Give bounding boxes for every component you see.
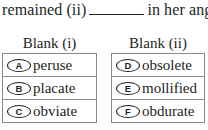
option-letter-badge: B <box>7 82 31 95</box>
option-word: mollified <box>142 81 197 96</box>
question-sentence: remained (ii)in her anger. <box>2 1 208 19</box>
option-letter-badge: A <box>7 59 31 72</box>
option-b[interactable]: Bplacate <box>3 77 97 100</box>
option-letter-badge: D <box>116 59 140 72</box>
sentence-after: in her anger. <box>147 1 208 18</box>
option-e[interactable]: Emollified <box>112 77 205 100</box>
blank-i-column: Blank (i) Aperuse Bplacate Cobviate <box>2 36 97 123</box>
blank-i-options: Aperuse Bplacate Cobviate <box>2 53 97 123</box>
blank-ii-options: Dobsolete Emollified Fobdurate <box>111 53 205 123</box>
sentence-before: remained (ii) <box>2 1 86 18</box>
option-letter-badge: F <box>116 105 140 118</box>
option-f[interactable]: Fobdurate <box>112 100 205 123</box>
blank-ii-title: Blank (ii) <box>111 36 205 53</box>
option-d[interactable]: Dobsolete <box>112 54 205 77</box>
blank-ii-line <box>89 2 144 15</box>
option-letter-badge: E <box>116 82 140 95</box>
option-letter-badge: C <box>7 105 31 118</box>
blank-ii-column: Blank (ii) Dobsolete Emollified Fobdurat… <box>111 36 205 123</box>
option-word: obdurate <box>142 104 194 119</box>
blank-i-title: Blank (i) <box>2 36 97 53</box>
option-word: peruse <box>33 58 72 73</box>
option-word: obsolete <box>142 58 192 73</box>
option-word: placate <box>33 81 75 96</box>
option-c[interactable]: Cobviate <box>3 100 97 123</box>
option-word: obviate <box>33 104 77 119</box>
option-a[interactable]: Aperuse <box>3 54 97 77</box>
